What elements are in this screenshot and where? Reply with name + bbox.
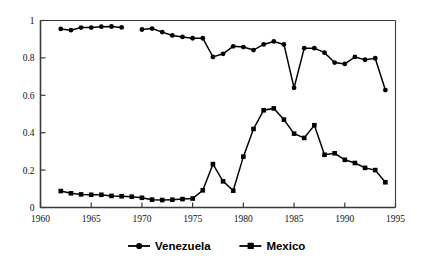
- data-point-marker: [312, 46, 317, 51]
- data-point-marker: [79, 25, 84, 30]
- x-tick-label: 1965: [82, 214, 101, 224]
- data-point-marker: [342, 158, 347, 163]
- data-point-marker: [302, 46, 307, 51]
- data-point-marker: [99, 192, 104, 197]
- data-point-marker: [251, 127, 256, 132]
- data-point-marker: [109, 24, 114, 29]
- y-tick-label: 0.8: [23, 53, 35, 63]
- x-tick-label: 1995: [386, 214, 405, 224]
- x-tick-label: 1960: [31, 214, 50, 224]
- data-point-marker: [170, 197, 175, 202]
- series-mexico: [58, 106, 387, 202]
- data-point-marker: [363, 57, 368, 62]
- data-point-marker: [282, 117, 287, 122]
- chart-container: 00.20.40.60.81 1960196519701975198019851…: [0, 0, 432, 268]
- data-point-marker: [69, 191, 74, 196]
- data-point-marker: [383, 88, 388, 93]
- data-point-marker: [271, 106, 276, 111]
- data-point-marker: [160, 198, 165, 203]
- data-point-marker: [292, 85, 297, 90]
- data-point-marker: [332, 151, 337, 156]
- data-point-marker: [160, 30, 165, 35]
- data-point-marker: [292, 131, 297, 136]
- data-point-marker: [241, 45, 246, 50]
- legend-label: Venezuela: [155, 240, 211, 252]
- data-point-marker: [200, 188, 205, 193]
- data-point-marker: [282, 42, 287, 47]
- data-point-marker: [373, 168, 378, 173]
- data-point-marker: [150, 26, 155, 31]
- data-point-marker: [170, 33, 175, 38]
- y-axis-labels: 00.20.40.60.81: [23, 16, 35, 213]
- data-point-marker: [79, 192, 84, 197]
- data-point-marker: [383, 180, 388, 185]
- y-tick-label: 0: [30, 203, 35, 213]
- y-tick-label: 0.4: [23, 128, 35, 138]
- data-point-marker: [261, 42, 266, 47]
- data-point-marker: [180, 197, 185, 202]
- data-point-marker: [211, 55, 216, 60]
- y-tick-label: 0.6: [23, 91, 35, 101]
- line-chart: 00.20.40.60.81 1960196519701975198019851…: [0, 0, 432, 268]
- data-point-marker: [241, 154, 246, 159]
- data-point-marker: [231, 188, 236, 193]
- y-tick-label: 1: [30, 16, 35, 26]
- data-point-marker: [211, 162, 216, 167]
- data-point-marker: [89, 25, 94, 30]
- data-point-marker: [312, 123, 317, 128]
- x-tick-label: 1980: [234, 214, 253, 224]
- plot-frame: [41, 21, 396, 208]
- data-point-marker: [140, 195, 145, 200]
- legend-item-venezuela: Venezuela: [128, 240, 211, 252]
- data-point-marker: [221, 51, 226, 56]
- data-point-marker: [353, 55, 358, 60]
- legend-label: Mexico: [266, 240, 305, 252]
- data-point-marker: [129, 194, 134, 199]
- x-axis-labels: 19601965197019751980198519901995: [31, 214, 405, 224]
- data-point-marker: [302, 136, 307, 141]
- data-point-marker: [190, 196, 195, 201]
- data-point-marker: [119, 25, 124, 30]
- data-point-marker: [373, 56, 378, 61]
- x-tick-label: 1975: [183, 214, 202, 224]
- data-point-marker: [322, 50, 327, 55]
- data-point-marker: [140, 27, 145, 32]
- legend-item-mexico: Mexico: [239, 240, 305, 252]
- data-point-marker: [342, 61, 347, 66]
- data-point-marker: [119, 194, 124, 199]
- data-point-marker: [200, 36, 205, 41]
- data-point-marker: [251, 48, 256, 53]
- data-point-marker: [99, 24, 104, 29]
- x-tick-label: 1970: [132, 214, 151, 224]
- chart-legend: VenezuelaMexico: [128, 240, 305, 252]
- data-point-marker: [89, 192, 94, 197]
- data-point-marker: [332, 60, 337, 65]
- data-point-marker: [58, 189, 63, 194]
- data-point-marker: [221, 179, 226, 184]
- data-point-marker: [150, 197, 155, 202]
- x-tick-label: 1990: [335, 214, 354, 224]
- data-point-marker: [190, 36, 195, 41]
- data-point-marker: [69, 28, 74, 33]
- x-tick-label: 1985: [285, 214, 304, 224]
- data-point-marker: [58, 27, 63, 32]
- y-tick-label: 0.2: [23, 166, 35, 176]
- series-venezuela: [58, 24, 387, 92]
- data-point-marker: [353, 161, 358, 166]
- data-point-marker: [261, 108, 266, 113]
- data-point-marker: [231, 44, 236, 49]
- data-series-layer: [58, 24, 387, 202]
- data-point-marker: [109, 194, 114, 199]
- data-point-marker: [180, 35, 185, 40]
- data-point-marker: [271, 39, 276, 44]
- series-polyline: [142, 29, 385, 91]
- data-point-marker: [363, 166, 368, 171]
- data-point-marker: [322, 152, 327, 157]
